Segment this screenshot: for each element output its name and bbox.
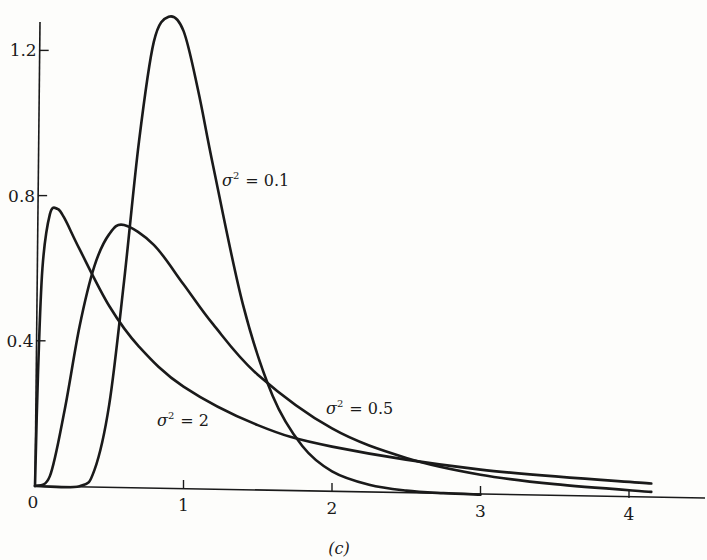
y-tick-label: 0.8 bbox=[8, 186, 35, 206]
curve-0-5 bbox=[35, 225, 651, 492]
x-tick-label: 3 bbox=[475, 501, 486, 521]
lognormal-density-chart: 012340.40.81.2 σ2= 0.1 σ2= 0.5 σ2= 2 (c) bbox=[0, 0, 707, 560]
label-sigma-2: σ2= 2 bbox=[157, 410, 209, 430]
axes: 012340.40.81.2 bbox=[7, 22, 705, 524]
x-tick-label: 1 bbox=[178, 495, 189, 515]
x-tick-label: 0 bbox=[28, 492, 39, 512]
figure-caption: (c) bbox=[328, 539, 349, 558]
curves bbox=[35, 16, 651, 494]
curve-0-1 bbox=[35, 16, 481, 494]
y-tick-label: 1.2 bbox=[10, 40, 37, 60]
x-tick-label: 2 bbox=[327, 498, 338, 518]
y-tick-label: 0.4 bbox=[7, 331, 34, 351]
label-sigma-0-5: σ2= 0.5 bbox=[326, 398, 393, 418]
label-sigma-0-1: σ2= 0.1 bbox=[222, 170, 289, 190]
x-tick-label: 4 bbox=[624, 504, 635, 524]
